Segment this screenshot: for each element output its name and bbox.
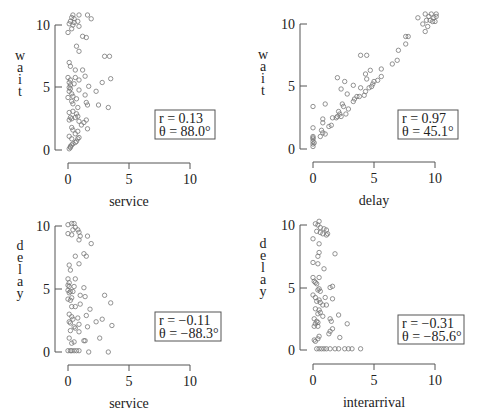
- x-tick-10: 10: [428, 373, 442, 388]
- data-point: [312, 317, 316, 321]
- data-point: [365, 77, 369, 81]
- stat-theta: θ = 45.1°: [402, 124, 454, 139]
- data-point: [345, 92, 349, 96]
- data-point: [77, 330, 81, 334]
- data-point: [88, 307, 92, 311]
- data-point: [76, 105, 80, 109]
- data-points: [66, 221, 114, 354]
- data-point: [404, 42, 408, 46]
- data-point: [76, 316, 80, 320]
- data-point: [323, 102, 327, 106]
- data-point: [74, 44, 78, 48]
- y-axis-label: wait: [15, 48, 26, 99]
- data-point: [318, 134, 322, 138]
- stat-theta: θ = −85.6°: [402, 329, 462, 344]
- x-tick-0: 0: [310, 171, 317, 186]
- panel-interarrival-vs-delay: 10 5 0 0 5 10 interarrival delay r = −0.…: [260, 218, 465, 410]
- y-axis: [55, 25, 62, 150]
- data-point: [311, 260, 315, 264]
- panel-service-vs-wait: 10 5 0 0 5 10 service wait r = 0.13 θ = …: [15, 13, 215, 209]
- data-point: [89, 17, 93, 21]
- x-tick-5: 5: [126, 172, 133, 187]
- data-point: [363, 72, 367, 76]
- data-point: [68, 268, 72, 272]
- data-point: [85, 234, 89, 238]
- data-point: [346, 107, 350, 111]
- data-point: [74, 97, 78, 101]
- x-axis: [313, 364, 435, 370]
- panel-service-vs-delay: 10 5 0 0 5 10 service delay r = −0.11 θ …: [17, 219, 222, 411]
- x-tick-5: 5: [126, 374, 133, 389]
- data-point: [338, 335, 342, 339]
- data-point: [343, 79, 347, 83]
- data-point: [317, 275, 321, 279]
- data-point: [416, 16, 420, 20]
- data-point: [358, 347, 362, 351]
- data-point: [87, 84, 91, 88]
- data-point: [67, 320, 71, 324]
- data-point: [78, 293, 82, 297]
- data-point: [85, 127, 89, 131]
- data-point: [102, 54, 106, 58]
- data-point: [365, 53, 369, 57]
- data-point: [89, 241, 93, 245]
- x-axis: [68, 163, 190, 169]
- y-tick-10: 10: [36, 219, 50, 234]
- stat-theta: θ = 88.0°: [159, 124, 211, 139]
- data-point: [82, 286, 86, 290]
- x-axis-label: interarrival: [343, 395, 405, 410]
- data-point: [77, 78, 81, 82]
- x-tick-5: 5: [371, 171, 378, 186]
- y-tick-5: 5: [43, 282, 50, 297]
- y-axis-label: delay: [17, 238, 24, 301]
- data-point: [311, 104, 315, 108]
- data-point: [67, 312, 71, 316]
- data-point: [94, 320, 98, 324]
- data-point: [322, 267, 326, 271]
- data-point: [339, 87, 343, 91]
- y-tick-5: 5: [288, 281, 295, 296]
- data-point: [77, 49, 81, 53]
- data-point: [77, 13, 81, 17]
- data-point: [77, 322, 81, 326]
- data-point: [68, 328, 72, 332]
- data-point: [76, 129, 80, 133]
- y-axis-label: delay: [260, 236, 267, 299]
- y-tick-10: 10: [36, 18, 50, 33]
- x-tick-0: 0: [65, 374, 72, 389]
- data-point: [77, 24, 81, 28]
- data-point: [362, 93, 366, 97]
- y-axis: [300, 225, 307, 350]
- y-tick-5: 5: [43, 80, 50, 95]
- data-point: [85, 325, 89, 329]
- data-point: [72, 284, 76, 288]
- data-point: [77, 262, 81, 266]
- data-point: [109, 301, 113, 305]
- data-point: [67, 336, 71, 340]
- panel-delay-vs-wait: 10 5 0 0 5 10 delay wait r = 0.97 θ = 45…: [258, 12, 458, 208]
- x-axis-label: service: [109, 396, 149, 411]
- data-point: [87, 350, 91, 354]
- data-point: [79, 123, 83, 127]
- data-point: [73, 68, 77, 72]
- y-tick-5: 5: [288, 79, 295, 94]
- data-point: [66, 30, 70, 34]
- x-axis-label: service: [109, 194, 149, 209]
- data-point: [106, 105, 110, 109]
- data-point: [68, 321, 72, 325]
- y-tick-0: 0: [288, 142, 295, 157]
- data-point: [70, 137, 74, 141]
- data-point: [67, 134, 71, 138]
- data-point: [358, 53, 362, 57]
- x-tick-10: 10: [183, 172, 197, 187]
- y-tick-10: 10: [281, 17, 295, 32]
- data-point: [78, 302, 82, 306]
- data-point: [313, 339, 317, 343]
- y-tick-10: 10: [281, 218, 295, 233]
- data-point: [311, 237, 315, 241]
- data-point: [77, 88, 81, 92]
- data-point: [85, 13, 89, 17]
- data-point: [84, 313, 88, 317]
- data-point: [102, 293, 106, 297]
- data-point: [368, 68, 372, 72]
